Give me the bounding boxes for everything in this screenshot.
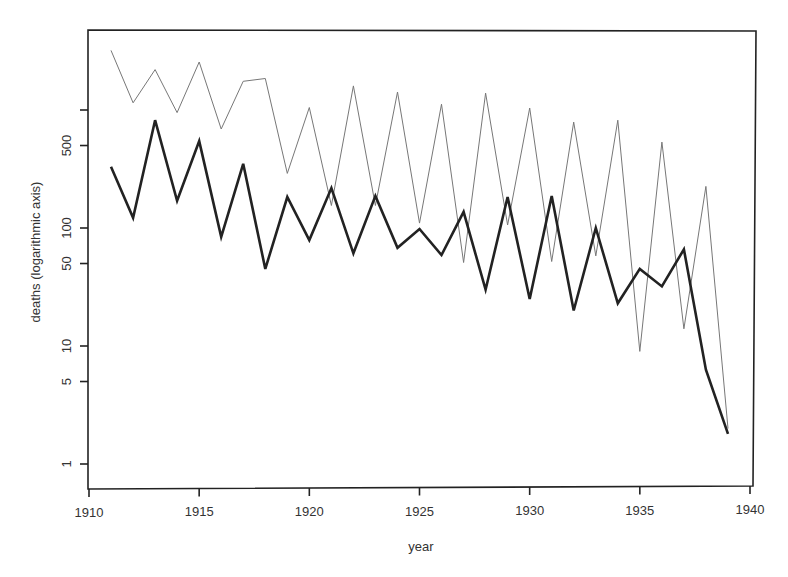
y-tick-label: 50 bbox=[59, 256, 74, 270]
y-tick-label: 500 bbox=[59, 135, 74, 157]
y-tick-label: 100 bbox=[59, 217, 74, 239]
x-tick-label: 1930 bbox=[515, 503, 544, 518]
plot-frame bbox=[88, 30, 756, 489]
x-axis: 1910191519201925193019351940 bbox=[75, 486, 765, 520]
x-tick-label: 1935 bbox=[625, 503, 654, 518]
x-axis-title: year bbox=[408, 539, 434, 554]
y-tick-label: 5 bbox=[59, 378, 74, 385]
y-axis-title: deaths (logarithmic axis) bbox=[28, 182, 43, 323]
x-tick-label: 1925 bbox=[405, 504, 434, 519]
thin-series-line bbox=[111, 50, 728, 428]
x-tick-label: 1920 bbox=[295, 504, 324, 519]
plot-border bbox=[88, 30, 756, 489]
y-tick-label: 10 bbox=[59, 339, 74, 353]
chart: 1910191519201925193019351940 15105010050… bbox=[0, 0, 788, 577]
thick-series-line bbox=[111, 120, 728, 434]
x-tick-label: 1910 bbox=[75, 505, 104, 520]
x-tick-label: 1915 bbox=[185, 504, 214, 519]
y-axis: 151050100500 bbox=[59, 110, 88, 468]
data-series bbox=[111, 50, 728, 434]
x-tick-label: 1940 bbox=[736, 502, 765, 517]
y-tick-label: 1 bbox=[59, 460, 74, 467]
